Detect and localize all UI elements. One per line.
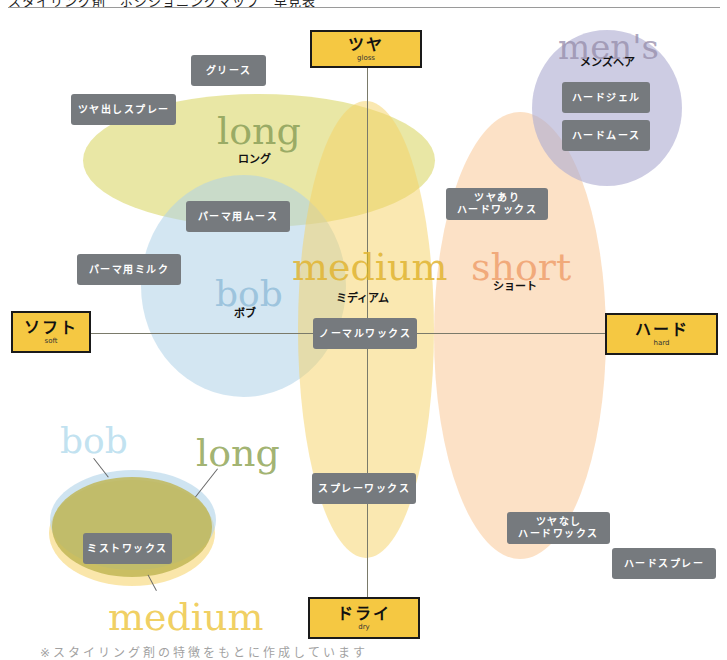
axis-pole-hard-label: ハード xyxy=(635,321,689,339)
axis-pole-soft-sub: soft xyxy=(44,337,57,346)
axis-pole-hard: ハード hard xyxy=(605,313,718,355)
product-hard-mousse: ハードムース xyxy=(562,120,650,151)
product-hard-spray: ハードスプレー xyxy=(612,548,716,579)
region-label-mens-jp: メンズヘア xyxy=(580,53,635,69)
axis-pole-dry-sub: dry xyxy=(358,623,369,632)
axis-pole-hard-sub: hard xyxy=(654,339,670,348)
legend-label-bob: bob xyxy=(60,423,128,459)
page-title: スタイリング剤 ポジショニングマップ 早見表 xyxy=(8,0,316,10)
legend-label-medium: medium xyxy=(108,598,264,636)
product-gloss-hard-wax-line2: ハードワックス xyxy=(457,204,538,216)
axis-pole-gloss-sub: gloss xyxy=(357,54,375,63)
product-perm-milk: パーマ用ミルク xyxy=(77,254,181,285)
product-matte-hard-wax-line1: ツヤなし xyxy=(536,516,582,528)
axis-pole-dry-label: ドライ xyxy=(337,605,391,623)
region-label-bob-jp: ボブ xyxy=(234,304,256,320)
axis-pole-dry: ドライ dry xyxy=(308,597,420,639)
region-label-long-en: long xyxy=(217,112,301,150)
product-normal-wax: ノーマルワックス xyxy=(313,318,417,349)
product-gloss-hard-wax-line1: ツヤあり xyxy=(474,192,520,204)
region-label-medium-en: medium xyxy=(292,248,448,286)
axis-pole-soft: ソフト soft xyxy=(11,311,91,353)
footer-note: ※スタイリング剤の特徴をもとに作成しています xyxy=(40,643,368,660)
region-label-long-jp: ロング xyxy=(238,150,271,166)
product-matte-hard-wax: ツヤなし ハードワックス xyxy=(507,512,610,544)
product-gloss-hard-wax: ツヤあり ハードワックス xyxy=(446,188,548,220)
product-mist-wax: ミストワックス xyxy=(83,533,172,564)
axis-pole-gloss: ツヤ gloss xyxy=(310,30,422,68)
product-spray-wax: スプレーワックス xyxy=(312,473,416,504)
product-grease: グリース xyxy=(191,55,266,86)
product-perm-mousse: パーマ用ムース xyxy=(186,201,290,232)
region-label-short-jp: ショート xyxy=(493,277,537,293)
product-gloss-spray: ツヤ出しスプレー xyxy=(71,94,176,125)
axis-pole-gloss-label: ツヤ xyxy=(348,36,384,54)
product-matte-hard-wax-line2: ハードワックス xyxy=(518,528,599,540)
legend-label-long: long xyxy=(196,434,280,472)
header-divider xyxy=(8,7,720,8)
axis-pole-soft-label: ソフト xyxy=(24,319,78,337)
product-hard-gel: ハードジェル xyxy=(562,82,650,113)
region-label-medium-jp: ミディアム xyxy=(336,289,389,305)
